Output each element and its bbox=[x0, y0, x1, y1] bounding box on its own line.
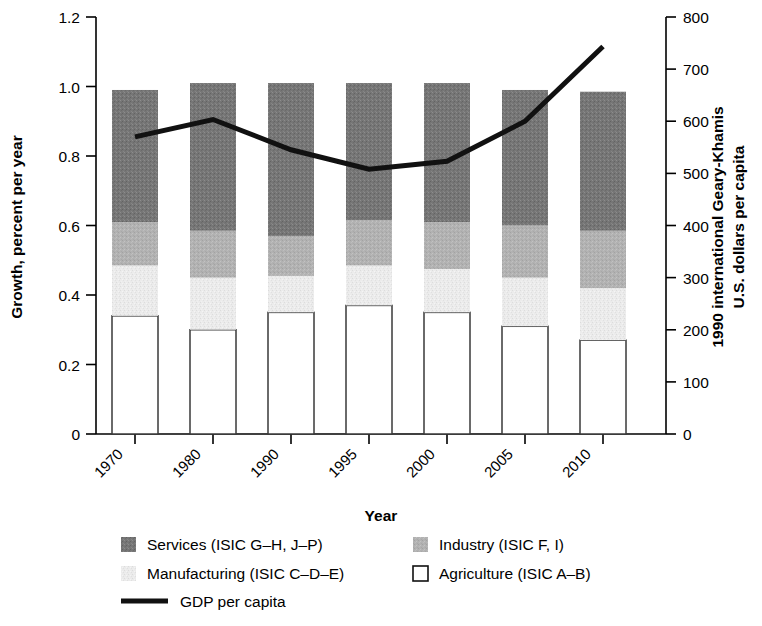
y-axis-left-title: Growth, percent per year bbox=[8, 135, 25, 318]
y-axis-right-title-line2: U.S. dollars per capita bbox=[730, 145, 747, 308]
y-tick-label-right: 100 bbox=[683, 374, 709, 391]
bar-segment-agriculture-1980 bbox=[190, 330, 236, 434]
y-tick-label-right: 500 bbox=[683, 165, 709, 182]
bar-segment-industry-1995 bbox=[346, 220, 392, 265]
bar-segment-agriculture-1990 bbox=[268, 312, 314, 434]
x-axis-title: Year bbox=[365, 507, 398, 524]
y-tick-label-right: 700 bbox=[683, 61, 709, 78]
bar-segment-services-2010 bbox=[580, 92, 626, 231]
bar-segment-manufacturing-1995 bbox=[346, 265, 392, 305]
bar-segment-manufacturing-2005 bbox=[502, 278, 548, 327]
y-tick-label: 0.6 bbox=[58, 218, 80, 235]
y-tick-label: 0.4 bbox=[58, 287, 80, 304]
bar-segment-agriculture-2000 bbox=[424, 312, 470, 434]
y-tick-label: 1.2 bbox=[58, 9, 80, 26]
y-tick-label-right: 200 bbox=[683, 322, 709, 339]
legend-swatch-agriculture bbox=[413, 566, 428, 581]
y-tick-label-right: 600 bbox=[683, 113, 709, 130]
bar-segment-industry-1980 bbox=[190, 231, 236, 278]
bar-segment-industry-2010 bbox=[580, 231, 626, 288]
bar-segment-services-1995 bbox=[346, 83, 392, 220]
legend-swatch-services bbox=[121, 537, 136, 552]
y-tick-label: 0.8 bbox=[58, 148, 80, 165]
bar-segment-services-1970 bbox=[112, 90, 158, 222]
legend-label-manufacturing: Manufacturing (ISIC C–D–E) bbox=[147, 565, 344, 582]
y-tick-label-right: 800 bbox=[683, 9, 709, 26]
legend-label-industry: Industry (ISIC F, I) bbox=[439, 536, 564, 553]
bar-segment-manufacturing-2010 bbox=[580, 288, 626, 340]
bar-segment-manufacturing-1990 bbox=[268, 276, 314, 312]
y-tick-label-right: 400 bbox=[683, 218, 709, 235]
y-tick-label-right: 300 bbox=[683, 270, 709, 287]
legend-label-gdp: GDP per capita bbox=[180, 593, 286, 610]
y-tick-label-right: 0 bbox=[683, 426, 692, 443]
chart-figure: Growth, percent per year 1990 internatio… bbox=[0, 0, 762, 626]
bar-segment-manufacturing-1980 bbox=[190, 278, 236, 330]
bar-segment-industry-2005 bbox=[502, 226, 548, 278]
bar-segment-industry-2000 bbox=[424, 222, 470, 269]
bar-segment-agriculture-2005 bbox=[502, 326, 548, 434]
legend-label-services: Services (ISIC G–H, J–P) bbox=[147, 536, 323, 553]
y-tick-label: 0 bbox=[71, 426, 80, 443]
bar-segment-agriculture-2010 bbox=[580, 340, 626, 434]
y-axis-right-title-line1: 1990 international Geary-Khamis bbox=[709, 106, 726, 347]
legend-swatch-industry bbox=[413, 537, 428, 552]
legend-label-agriculture: Agriculture (ISIC A–B) bbox=[439, 565, 591, 582]
bar-segment-agriculture-1995 bbox=[346, 305, 392, 434]
bar-segment-services-1990 bbox=[268, 83, 314, 236]
bar-segment-industry-1970 bbox=[112, 222, 158, 265]
bar-segment-agriculture-1970 bbox=[112, 316, 158, 434]
bar-segment-services-2005 bbox=[502, 90, 548, 226]
legend-swatch-manufacturing bbox=[121, 566, 136, 581]
bar-segment-manufacturing-1970 bbox=[112, 265, 158, 315]
bar-segment-industry-1990 bbox=[268, 236, 314, 276]
y-tick-label: 1.0 bbox=[58, 79, 80, 96]
bar-segment-services-1980 bbox=[190, 83, 236, 231]
bar-segment-manufacturing-2000 bbox=[424, 269, 470, 312]
y-axis-right-tick-labels: 800 700 600 500 400 300 200 100 0 bbox=[683, 9, 709, 443]
y-tick-label: 0.2 bbox=[58, 357, 80, 374]
